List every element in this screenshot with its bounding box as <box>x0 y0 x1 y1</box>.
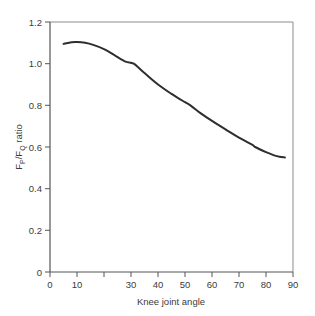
y-tick-label-0_6: 0.6 <box>29 142 42 153</box>
x-tick-label-10: 10 <box>72 279 83 290</box>
y-tick-label-0_4: 0.4 <box>29 183 42 194</box>
x-axis-title: Knee joint angle <box>137 296 205 307</box>
y-tick-label-0: 0 <box>37 267 42 278</box>
x-tick-label-0: 0 <box>47 279 52 290</box>
x-tick-label-80: 80 <box>261 279 272 290</box>
x-tick-label-30: 30 <box>126 279 137 290</box>
chart-figure: 1.2 1.0 0.8 0.6 0.4 0.2 0 0 10 30 <box>0 0 315 316</box>
y-tick-label-1_0: 1.0 <box>29 58 42 69</box>
x-tick-label-70: 70 <box>234 279 245 290</box>
y-title-slash: /F <box>13 151 24 160</box>
chart-canvas: 1.2 1.0 0.8 0.6 0.4 0.2 0 0 10 30 <box>0 0 315 316</box>
x-tick-label-50: 50 <box>180 279 191 290</box>
x-tick-label-90: 90 <box>288 279 299 290</box>
y-tick-label-0_8: 0.8 <box>29 100 42 111</box>
y-tick-label-0_2: 0.2 <box>29 225 42 236</box>
chart-background <box>0 0 315 316</box>
x-tick-label-60: 60 <box>207 279 218 290</box>
y-title-tail: ratio <box>13 124 24 145</box>
x-tick-label-40: 40 <box>153 279 164 290</box>
y-tick-label-1_2: 1.2 <box>29 17 42 28</box>
